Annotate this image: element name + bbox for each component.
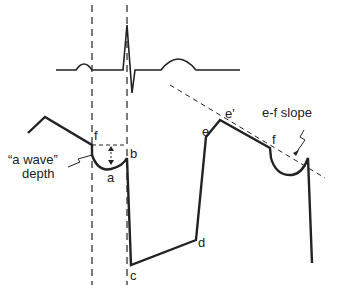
arrow-head-down [108,160,114,165]
ef-slope-line [170,85,325,178]
mitral-valve-diagram: f b a c d e e' f “a wave” depth e-f slop… [0,0,338,285]
ecg-trace [56,25,240,93]
label-b: b [130,146,137,161]
label-e: e [202,124,209,139]
mitral-valve-trace [28,117,312,265]
label-a-wave-line2: depth [22,166,55,181]
a-wave-pointer [68,155,92,167]
ef-arrow-head [293,150,299,156]
label-d: d [198,235,205,250]
label-ef-slope: e-f slope [262,105,312,120]
label-a-wave-line1: “a wave” [8,152,58,167]
label-f-left: f [94,128,98,143]
ef-slope-pointer [296,130,305,153]
arrow-head-up [108,146,114,151]
label-a: a [107,170,115,185]
label-e-prime: e' [225,106,235,121]
label-f-right: f [272,132,276,147]
label-c: c [130,268,137,283]
